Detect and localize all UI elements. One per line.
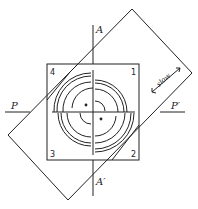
label-a-top: A bbox=[95, 24, 103, 35]
label-p-right: P′ bbox=[170, 100, 181, 111]
upper-left-arcs bbox=[54, 73, 93, 112]
label-a-bottom: A′ bbox=[95, 176, 106, 187]
quadrant-3-label: 3 bbox=[50, 150, 55, 159]
quadrant-2-label: 2 bbox=[131, 150, 136, 159]
centre-dot bbox=[85, 104, 88, 107]
quadrant-1-label: 1 bbox=[131, 68, 136, 77]
slow-label: slow bbox=[155, 72, 172, 89]
lower-left-arcs bbox=[58, 113, 91, 146]
upper-right-arcs bbox=[95, 80, 127, 112]
rotated-plate-outline bbox=[8, 9, 192, 200]
crystal-interference-diagram: slow A A′ P P′ 1 2 3 4 bbox=[0, 0, 198, 209]
label-p-left: P bbox=[10, 100, 18, 111]
quadrant-4-label: 4 bbox=[50, 68, 55, 77]
centre-dot bbox=[100, 118, 103, 121]
